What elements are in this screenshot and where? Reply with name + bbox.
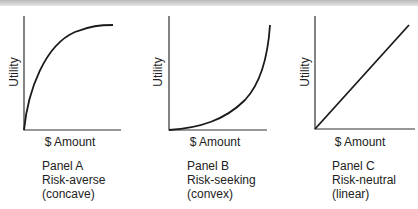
panel-c-shape: (linear) [332,187,396,201]
panel-b-title: Panel B [187,159,256,173]
panel-a-caption: Panel A Risk-averse (concave) [42,159,105,201]
panel-a-x-axis-label: $ Amount [30,135,110,149]
panel-b-x-axis-label: $ Amount [175,135,255,149]
panel-b-convex-curve [169,25,270,130]
panel-b-type: Risk-seeking [187,173,256,187]
panel-c-type: Risk-neutral [332,173,396,187]
panel-a-title: Panel A [42,159,105,173]
panel-c-caption: Panel C Risk-neutral (linear) [332,159,396,201]
panel-a-type: Risk-averse [42,173,105,187]
panel-b-y-axis-label: Utility [151,47,165,97]
panel-b-shape: (convex) [187,187,256,201]
panel-c-x-axis-label: $ Amount [320,135,400,149]
panel-a-y-axis-label: Utility [7,47,21,97]
panel-b-caption: Panel B Risk-seeking (convex) [187,159,256,201]
panel-b-axes [169,16,267,130]
panel-a-plot [24,16,121,130]
panel-c-y-axis-label: Utility [298,47,312,97]
panel-a-concave-curve [24,25,113,130]
panel-c-plot [315,16,415,129]
panel-b-plot [169,16,270,130]
panel-a-shape: (concave) [42,187,105,201]
panel-c-title: Panel C [332,159,396,173]
panel-c-linear-line [315,25,409,129]
